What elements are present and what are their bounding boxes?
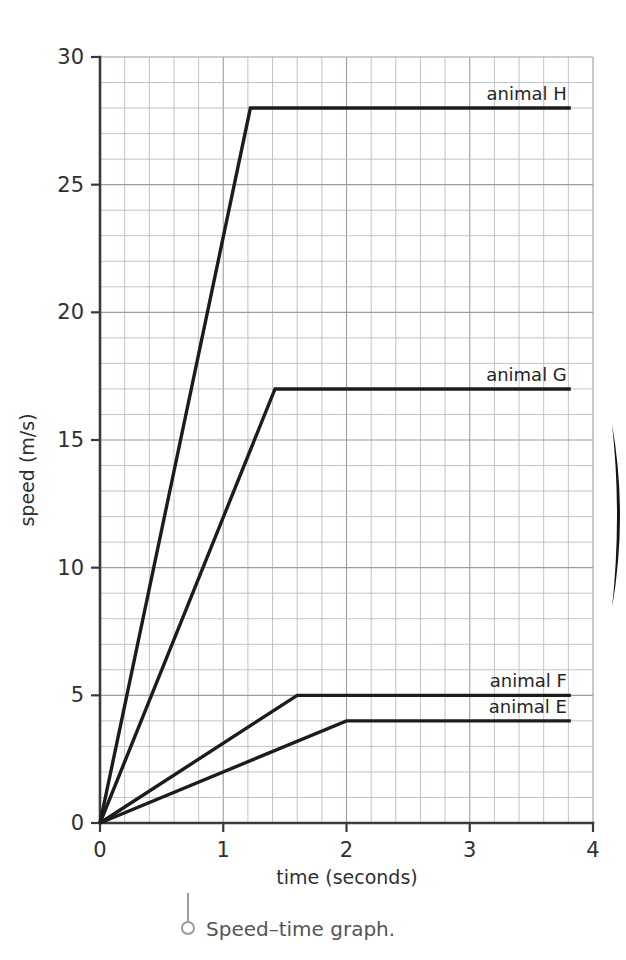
x-tick-label: 0 [93,838,106,862]
y-axis-title: speed (m/s) [16,413,38,526]
x-tick-label: 2 [340,838,353,862]
series-label-animal-h: animal H [487,83,567,104]
x-tick-label: 3 [463,838,476,862]
y-axis-ticks [91,57,100,823]
page-edge-artifact [612,424,620,608]
figure-root: 051015202530 01234 animal Hanimal Ganima… [0,0,626,960]
x-axis-tick-labels: 01234 [93,838,599,862]
series-label-animal-e: animal E [489,696,567,717]
y-tick-label: 20 [57,300,84,324]
y-tick-label: 15 [57,428,84,452]
y-tick-label: 30 [57,45,84,69]
x-tick-label: 4 [586,838,599,862]
x-axis-ticks [100,823,593,832]
pin-marker-icon [182,893,194,934]
y-tick-label: 25 [57,173,84,197]
y-axis-tick-labels: 051015202530 [57,45,84,835]
speed-time-chart: 051015202530 01234 animal Hanimal Ganima… [0,0,626,960]
y-tick-label: 5 [71,683,84,707]
figure-caption: Speed–time graph. [206,917,395,941]
y-tick-label: 10 [57,556,84,580]
x-tick-label: 1 [217,838,230,862]
y-tick-label: 0 [71,811,84,835]
series-label-animal-f: animal F [490,670,567,691]
x-axis-title: time (seconds) [276,866,417,888]
series-label-animal-g: animal G [486,364,567,385]
